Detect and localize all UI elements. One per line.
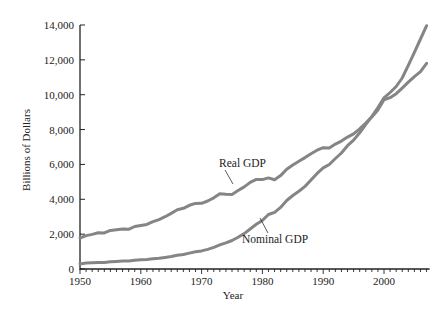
y-tick-label: 10,000 [44, 89, 75, 101]
y-tick-label: 0 [69, 263, 75, 275]
nominal-gdp-label: Nominal GDP [242, 233, 308, 245]
series-lines [80, 26, 427, 264]
x-axis: 195019601970198019902000 [69, 269, 430, 287]
y-tick-label: 4,000 [49, 193, 74, 205]
x-axis-title: Year [223, 289, 244, 301]
y-tick-label: 14,000 [44, 19, 75, 31]
x-tick-label: 1970 [191, 275, 214, 287]
annotations: Real GDPNominal GDP [219, 157, 308, 245]
y-axis-title: Billions of Dollars [20, 109, 32, 191]
y-tick-label: 6,000 [49, 158, 74, 170]
x-tick-label: 1990 [312, 275, 335, 287]
real-gdp-label: Real GDP [219, 157, 266, 169]
real-gdp-line [80, 63, 427, 238]
x-tick-label: 1960 [130, 275, 153, 287]
gdp-line-chart: 02,0004,0006,0008,00010,00012,00014,000 … [0, 0, 437, 315]
x-tick-label: 2000 [373, 275, 396, 287]
real-gdp-leader [225, 170, 233, 184]
y-tick-label: 12,000 [44, 54, 75, 66]
y-axis: 02,0004,0006,0008,00010,00012,00014,000 [44, 19, 85, 275]
y-tick-label: 2,000 [49, 228, 74, 240]
y-tick-label: 8,000 [49, 124, 74, 136]
x-tick-label: 1950 [69, 275, 92, 287]
x-tick-label: 1980 [251, 275, 274, 287]
